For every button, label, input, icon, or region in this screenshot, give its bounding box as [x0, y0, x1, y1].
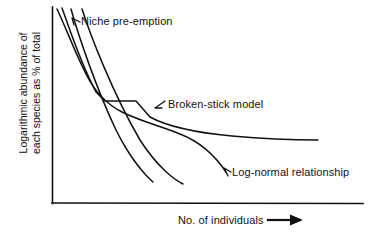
figure-canvas	[0, 0, 379, 242]
broken-stick-leader-line	[155, 101, 165, 108]
log-normal-leader-line	[224, 168, 231, 176]
annotation-niche-preemption: Niche pre-emption	[81, 15, 173, 27]
y-axis-label-line-2: each species as % of total	[30, 3, 43, 183]
y-axis-label-line-1: Logarithmic abundance of	[17, 3, 30, 183]
curve-niche-preemption-1	[71, 9, 153, 182]
right-arrow-icon	[268, 215, 303, 226]
curve-broken-stick	[62, 8, 318, 140]
figure-container: Logarithmic abundance of each species as…	[0, 0, 379, 242]
annotation-log-normal: Log-normal relationship	[232, 166, 349, 178]
annotation-broken-stick: Broken-stick model	[168, 98, 263, 110]
x-axis-label: No. of individuals	[178, 214, 264, 226]
y-axis-label: Logarithmic abundance of each species as…	[17, 3, 43, 183]
x-axis-line	[52, 203, 363, 204]
curve-log-normal	[57, 9, 226, 172]
